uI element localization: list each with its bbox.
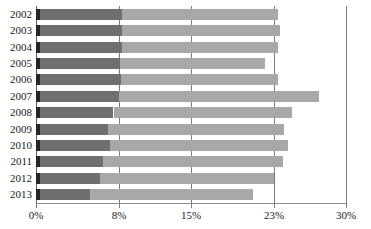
bar-segment: [40, 91, 119, 102]
x-tick-0pct: [36, 203, 37, 208]
bar-segment: [40, 42, 122, 53]
y-axis-label-2009: 2009: [0, 124, 32, 135]
bar-segment: [40, 189, 90, 200]
x-axis-label: 23%: [254, 209, 294, 222]
chart-title: [44, 0, 194, 2]
bar-segment: [103, 156, 283, 167]
x-tick-23pct: [274, 203, 275, 208]
bar-segment: [114, 107, 293, 118]
bar-segment: [40, 58, 120, 69]
bar-segment: [90, 189, 253, 200]
bar-segment: [100, 173, 274, 184]
x-axis-label: 30%: [326, 209, 366, 222]
bar-segment: [122, 42, 278, 53]
x-tick-15pct: [191, 203, 192, 208]
x-axis-label: 15%: [171, 209, 211, 222]
x-tick-8pct: [119, 203, 120, 208]
y-axis-label-2006: 2006: [0, 74, 32, 85]
bar-segment: [40, 173, 100, 184]
bar-segment: [119, 91, 319, 102]
bar-segment: [110, 140, 288, 151]
bar-segment: [40, 9, 122, 20]
bar-segment: [40, 124, 108, 135]
y-axis-label-2010: 2010: [0, 140, 32, 151]
y-axis-label-2012: 2012: [0, 173, 32, 184]
bar-segment: [40, 107, 113, 118]
bar-segment: [40, 25, 122, 36]
y-axis-label-2008: 2008: [0, 107, 32, 118]
y-axis-label-2002: 2002: [0, 9, 32, 20]
x-tick-30pct: [346, 203, 347, 208]
y-axis-label-2007: 2007: [0, 91, 32, 102]
stacked-bar-chart: 0%8%15%23%30%200220032004200520062007200…: [0, 0, 371, 229]
y-axis-label-2003: 2003: [0, 25, 32, 36]
y-axis-label-2004: 2004: [0, 42, 32, 53]
bar-segment: [120, 58, 266, 69]
bar-segment: [122, 9, 278, 20]
bar-segment: [122, 25, 280, 36]
gridline-30pct: [346, 6, 347, 203]
y-axis-label-2013: 2013: [0, 189, 32, 200]
y-axis-label-2011: 2011: [0, 156, 32, 167]
x-axis-label: 8%: [99, 209, 139, 222]
bar-segment: [121, 74, 278, 85]
x-axis-label: 0%: [16, 209, 56, 222]
bar-segment: [108, 124, 284, 135]
bar-segment: [40, 74, 121, 85]
bar-segment: [40, 140, 110, 151]
bar-segment: [40, 156, 103, 167]
y-axis-label-2005: 2005: [0, 58, 32, 69]
plot-area: [36, 6, 346, 203]
